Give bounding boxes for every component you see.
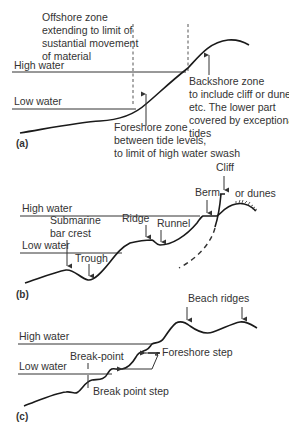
high-water-label: High water [19,330,70,342]
foreshore-step-bracket [152,355,158,369]
beach-ridges-label: Beach ridges [188,292,249,304]
ridge-label: Ridge [122,212,150,224]
offshore-zone-label: Offshore zone extending to limit of sust… [42,11,141,62]
berm-label: Berm [195,186,220,198]
panel-a-label: (a) [16,138,28,149]
low-water-label: Low water [14,95,62,107]
trough-label: Trough [75,252,108,264]
panel-b: Cliff Berm or dunes High water Low water… [16,161,276,300]
beach-profile-diagram: Offshore zone extending to limit of sust… [0,0,289,434]
submarine-bar-crest-label: Submarine bar crest [50,214,104,239]
low-water-label: Low water [19,360,67,372]
high-water-label: High water [22,202,73,214]
panel-a: Offshore zone extending to limit of sust… [12,11,289,159]
runnel-label: Runnel [157,217,190,229]
foreshore-zone-label: Foreshore zone between tide levels, to l… [114,121,240,159]
low-water-label: Low water [22,239,70,251]
cliff-label: Cliff [216,161,234,173]
panel-c: Beach ridges High water Break-point Fore… [16,292,257,422]
high-water-label: High water [14,59,65,71]
foreshore-step-label: Foreshore step [162,346,233,358]
cliff-projection-dashed [179,228,215,268]
break-point-step-label: Break point step [93,385,169,397]
panel-c-label: (c) [16,411,28,422]
or-dunes-label: or dunes [235,187,276,199]
panel-b-label: (b) [16,289,29,300]
backshore-zone-label: Backshore zone to include cliff or dunes… [189,75,289,139]
break-point-label: Break-point [70,350,124,362]
